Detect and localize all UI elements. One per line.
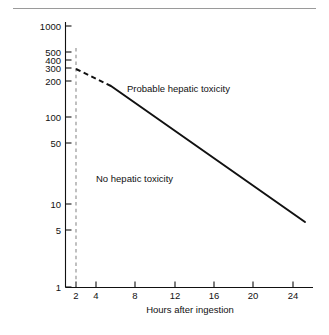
y-tick-label-1000: 1000 — [40, 21, 61, 32]
nomogram-chart: 1000 500 400 300 200 100 50 10 5 1 2 4 8… — [0, 0, 329, 335]
figure-container: 1000 500 400 300 200 100 50 10 5 1 2 4 8… — [0, 0, 329, 335]
y-tick-label-200: 200 — [45, 76, 61, 87]
x-axis-title: Hours after ingestion — [146, 304, 234, 315]
x-tick-label-2: 2 — [73, 290, 78, 301]
x-axis-ticks — [76, 282, 293, 288]
x-tick-label-24: 24 — [288, 290, 299, 301]
x-tick-label-20: 20 — [248, 290, 259, 301]
y-axis-ticks — [66, 26, 72, 287]
treatment-line-dashed-segment — [76, 69, 111, 86]
y-tick-label-50: 50 — [50, 138, 61, 149]
x-tick-label-4: 4 — [93, 290, 98, 301]
no-toxicity-annotation: No hepatic toxicity — [96, 173, 173, 184]
y-tick-label-1: 1 — [56, 282, 61, 293]
y-tick-label-100: 100 — [45, 112, 61, 123]
figure-caption-partial — [12, 330, 312, 335]
y-tick-label-10: 10 — [50, 199, 61, 210]
x-tick-label-12: 12 — [170, 290, 181, 301]
x-tick-label-8: 8 — [132, 290, 137, 301]
x-tick-label-16: 16 — [209, 290, 220, 301]
probable-toxicity-annotation: Probable hepatic toxicity — [127, 83, 230, 94]
y-tick-label-300: 300 — [45, 63, 61, 74]
treatment-line-solid-segment — [111, 86, 305, 222]
y-tick-label-5: 5 — [56, 225, 61, 236]
